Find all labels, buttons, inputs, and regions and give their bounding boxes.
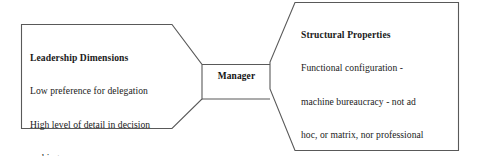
right-panel-line: hoc, or matrix, nor professional — [301, 129, 456, 140]
right-panel-line: Functional configuration - — [301, 62, 456, 73]
left-panel-content: Leadership Dimensions Low preference for… — [30, 30, 175, 156]
left-panel-line: making — [30, 152, 175, 156]
right-panel-content: Structural Properties Functional configu… — [301, 7, 456, 156]
right-panel-title: Structural Properties — [301, 29, 456, 40]
diagram-canvas: Leadership Dimensions Low preference for… — [0, 0, 484, 156]
right-panel-line: machine bureaucracy - not ad — [301, 96, 456, 107]
left-panel-line: Low preference for delegation — [30, 85, 175, 96]
left-panel-line: High level of detail in decision — [30, 119, 175, 130]
left-panel-title: Leadership Dimensions — [30, 52, 175, 63]
hub-label: Manager — [202, 71, 271, 81]
